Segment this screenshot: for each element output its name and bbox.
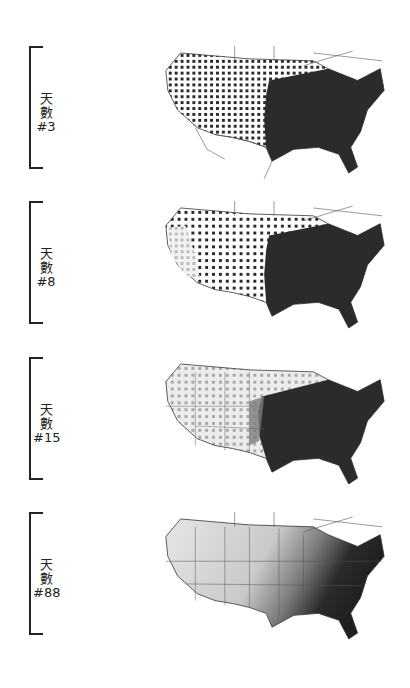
label-char-2: 數 [33, 572, 59, 586]
label-char-1: 天 [33, 403, 59, 417]
panel-day-8: 天 數 #8 [0, 195, 410, 335]
panel-label: 天 數 #8 [33, 247, 59, 289]
panel-label: 天 數 #88 [33, 558, 59, 600]
panel-label: 天 數 #15 [33, 403, 59, 445]
panel-label: 天 數 #3 [33, 92, 59, 134]
us-map-image [156, 40, 392, 180]
us-map-day-15 [156, 351, 392, 491]
label-char-2: 數 [33, 106, 59, 120]
us-map-day-3 [156, 40, 392, 180]
panel-day-15: 天 數 #15 [0, 351, 410, 491]
day-number: #15 [33, 431, 59, 445]
us-map-image [156, 351, 392, 491]
day-number: #8 [33, 275, 59, 289]
label-char-1: 天 [33, 92, 59, 106]
us-map-image [156, 506, 392, 646]
label-char-1: 天 [33, 247, 59, 261]
us-map-image [156, 195, 392, 335]
panel-day-3: 天 數 #3 [0, 40, 410, 180]
label-char-2: 數 [33, 261, 59, 275]
us-map-day-88 [156, 506, 392, 646]
label-char-2: 數 [33, 417, 59, 431]
day-number: #88 [33, 586, 59, 600]
day-number: #3 [33, 120, 59, 134]
label-char-1: 天 [33, 558, 59, 572]
us-map-day-8 [156, 195, 392, 335]
panel-day-88: 天 數 #88 [0, 506, 410, 646]
